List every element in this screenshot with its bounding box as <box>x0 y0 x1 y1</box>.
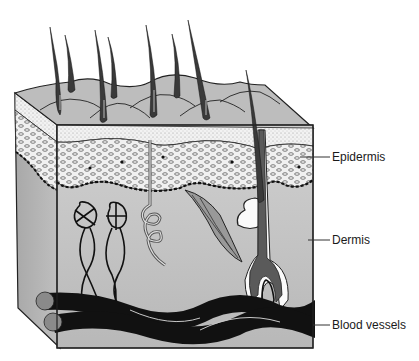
label-blood-vessels: Blood vessels <box>332 318 406 332</box>
label-dermis: Dermis <box>332 233 370 247</box>
label-epidermis: Epidermis <box>332 150 385 164</box>
skin-cross-section-diagram <box>0 0 419 361</box>
